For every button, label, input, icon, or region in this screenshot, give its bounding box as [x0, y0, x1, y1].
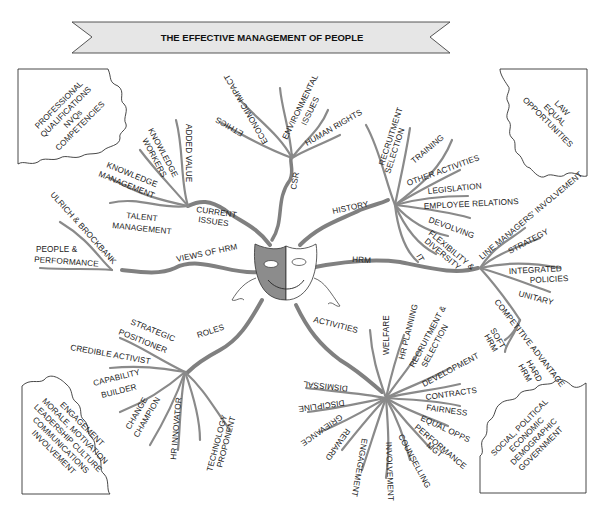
node-welfare: WELFARE — [382, 315, 391, 355]
node-added-value: ADDED VALUE — [184, 124, 193, 183]
page-title: THE EFFECTIVE MANAGEMENT OF PEOPLE — [161, 32, 364, 43]
mind-map: THE EFFECTIVE MANAGEMENT OF PEOPLE PROFE… — [0, 0, 608, 514]
title-banner: THE EFFECTIVE MANAGEMENT OF PEOPLE — [72, 22, 450, 53]
branch-label-hrm: HRM — [352, 255, 371, 265]
node-people-performance: PEOPLE & — [36, 245, 78, 254]
